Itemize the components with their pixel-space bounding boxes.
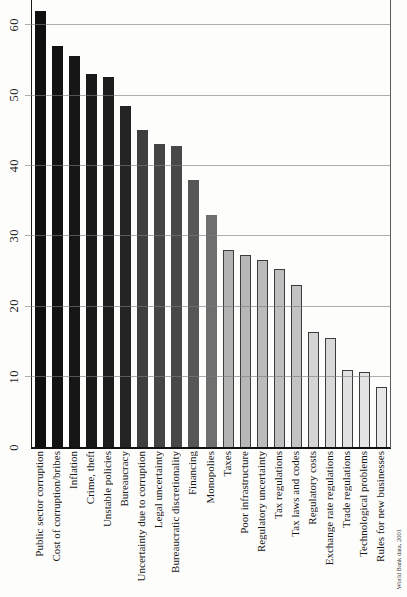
x-label-col: Exchange rate regulations: [320, 451, 338, 595]
gridline-20: [25, 306, 391, 307]
y-tick-40: 40: [1, 147, 27, 183]
x-axis-label: Trade regulations: [341, 451, 352, 528]
x-label-col: Tax regulations: [269, 451, 287, 595]
x-axis-label: Crime, theft: [85, 451, 96, 504]
x-label-col: Inflation: [65, 451, 83, 595]
y-tick-50: 50: [1, 77, 27, 113]
y-tick-label: 10: [7, 370, 22, 384]
x-axis-label: Tax laws and codes: [290, 451, 301, 537]
x-label-col: Bureaucratic discretionality: [167, 451, 185, 595]
y-tick-10: 10: [1, 359, 27, 395]
x-axis-label: Unstable policies: [102, 451, 113, 527]
gridline-30: [25, 235, 391, 236]
y-tick-label: 40: [7, 159, 22, 173]
bar: [86, 74, 97, 447]
x-axis-label: Regulatory costs: [307, 451, 318, 525]
bar: [69, 56, 80, 447]
y-tick-label: 20: [7, 299, 22, 313]
gridline-40: [25, 165, 391, 166]
x-axis-label: Public sector corruption: [34, 451, 45, 557]
x-label-col: Uncertainty due to corruption: [133, 451, 151, 595]
y-tick-label: 60: [7, 18, 22, 32]
y-tick-label: 0: [7, 444, 22, 451]
bar: [223, 250, 234, 447]
bar: [171, 146, 182, 447]
x-label-col: Rules for new businesses: [371, 451, 389, 595]
x-axis-label: Regulatory uncertainty: [256, 451, 267, 552]
x-label-col: Regulatory costs: [303, 451, 321, 595]
x-label-col: Monopolies: [201, 451, 219, 595]
bar: [120, 106, 131, 447]
bar: [137, 130, 148, 447]
x-axis-label: Technological problems: [358, 451, 369, 557]
plot-area: [31, 0, 391, 449]
bar: [35, 11, 46, 447]
bar: [274, 269, 285, 447]
bar: [188, 180, 199, 447]
bar: [325, 338, 336, 447]
bar: [103, 77, 114, 447]
x-label-col: Trade regulations: [337, 451, 355, 595]
bar: [376, 387, 387, 447]
x-axis-label: Exchange rate regulations: [324, 451, 335, 565]
x-label-col: Poor infrastructure: [235, 451, 253, 595]
x-axis-label: Bureaucracy: [119, 451, 130, 507]
bar-chart-figure: 0102030405060 Public sector corruptionCo…: [0, 0, 407, 597]
source-note: World Bank data, 2001: [395, 529, 402, 589]
x-axis-label: Cost of corruption/bribes: [51, 451, 62, 562]
x-axis-label: Inflation: [68, 451, 79, 489]
x-label-col: Financing: [184, 451, 202, 595]
x-label-col: Tax laws and codes: [286, 451, 304, 595]
x-axis-label: Tax regulations: [273, 451, 284, 519]
x-axis-label: Financing: [187, 451, 198, 495]
bar: [206, 215, 217, 447]
bar: [240, 255, 251, 447]
y-tick-30: 30: [1, 218, 27, 254]
x-label-col: Legal uncertainty: [150, 451, 168, 595]
bar: [308, 332, 319, 447]
x-axis-label: Bureaucratic discretionality: [170, 451, 181, 573]
x-axis-label: Monopolies: [205, 451, 216, 504]
x-label-col: Cost of corruption/bribes: [48, 451, 66, 595]
bar: [359, 372, 370, 447]
gridline-60: [25, 24, 391, 25]
bar: [257, 260, 268, 447]
x-axis-label: Poor infrastructure: [239, 451, 250, 534]
y-tick-label: 50: [7, 88, 22, 102]
x-axis-label: Rules for new businesses: [375, 451, 386, 562]
x-label-col: Taxes: [218, 451, 236, 595]
y-tick-0: 0: [1, 429, 27, 465]
bar: [342, 370, 353, 447]
y-tick-60: 60: [1, 7, 27, 43]
x-axis-label: Legal uncertainty: [153, 451, 164, 528]
bar: [291, 285, 302, 447]
x-label-col: Unstable policies: [99, 451, 117, 595]
x-label-col: Bureaucracy: [116, 451, 134, 595]
y-tick-label: 30: [7, 229, 22, 243]
bar: [154, 144, 165, 447]
x-axis-label: Taxes: [222, 451, 233, 477]
x-label-col: Technological problems: [354, 451, 372, 595]
bar: [52, 46, 63, 447]
x-label-col: Public sector corruption: [31, 451, 49, 595]
x-label-col: Regulatory uncertainty: [252, 451, 270, 595]
x-axis-label: Uncertainty due to corruption: [136, 451, 147, 581]
gridline-10: [25, 376, 391, 377]
x-label-col: Crime, theft: [82, 451, 100, 595]
y-tick-20: 20: [1, 288, 27, 324]
gridline-50: [25, 95, 391, 96]
